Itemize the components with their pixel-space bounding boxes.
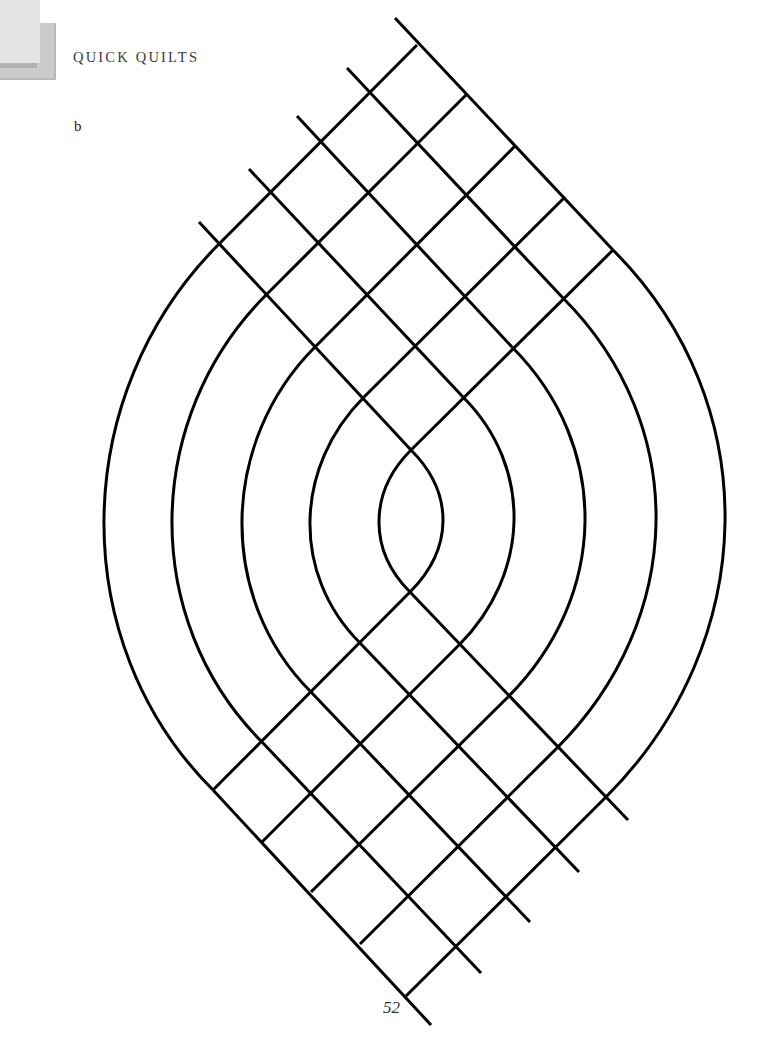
- right-arc: [459, 397, 514, 645]
- right-arc: [606, 250, 725, 797]
- left-arc: [242, 347, 315, 692]
- lattice-line: [411, 250, 613, 450]
- diagonal-lattice: [199, 18, 628, 1025]
- left-arc: [310, 397, 364, 643]
- left-arc: [379, 450, 411, 592]
- left-arc: [104, 244, 219, 790]
- left-arc: [172, 295, 266, 742]
- arc-bands: [104, 244, 725, 797]
- page-number: 52: [383, 998, 400, 1018]
- quilting-pattern-figure: [0, 0, 761, 1053]
- right-arc: [410, 450, 443, 592]
- right-arc: [508, 347, 585, 697]
- right-arc: [557, 298, 656, 748]
